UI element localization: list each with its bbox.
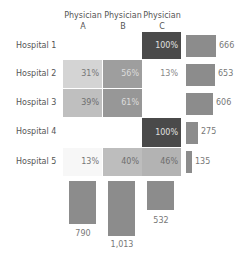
row-label-hospital-5: Hospital 5 (16, 157, 56, 167)
heatmap-cell: 13% (142, 60, 181, 88)
column-header-line: A (63, 21, 103, 32)
row-total-bar (186, 35, 216, 57)
row-total-value: 653 (218, 69, 233, 78)
column-total-value: 1,013 (102, 240, 142, 249)
row-label-hospital-2: Hospital 2 (16, 69, 56, 79)
row-total-bar (186, 122, 198, 144)
row-total-value: 275 (201, 127, 216, 136)
heatmap-cell: 56% (103, 60, 142, 88)
heatmap-cell: 100% (142, 118, 181, 147)
row-total-bar (186, 151, 192, 173)
column-total-bar (108, 181, 135, 236)
column-total-bar (147, 181, 174, 210)
heatmap-cell: 39% (63, 89, 102, 117)
row-total-bar (186, 93, 213, 115)
column-header-line: Physician (142, 10, 182, 21)
heatmap-cell: 31% (63, 60, 102, 88)
heatmap-cell: 61% (103, 89, 142, 117)
row-label-hospital-3: Hospital 3 (16, 98, 56, 108)
row-total-value: 135 (195, 157, 210, 166)
row-label-hospital-4: Hospital 4 (16, 127, 56, 137)
column-header-physician-c: Physician C (142, 10, 182, 32)
heatmap-cell: 13% (63, 148, 102, 176)
column-header-physician-b: Physician B (103, 10, 143, 32)
heatmap-cell: 40% (103, 148, 142, 176)
column-header-physician-a: Physician A (63, 10, 103, 32)
heatmap-cell: 100% (142, 32, 181, 59)
column-header-line: Physician (63, 10, 103, 21)
column-total-value: 532 (141, 216, 181, 225)
column-total-value: 790 (63, 229, 103, 238)
row-total-value: 606 (216, 98, 231, 107)
row-label-hospital-1: Hospital 1 (16, 41, 56, 51)
column-header-line: C (142, 21, 182, 32)
row-total-bar (186, 64, 215, 86)
column-header-line: Physician (103, 10, 143, 21)
heatmap-cell: 46% (142, 148, 181, 176)
row-total-value: 666 (219, 41, 234, 50)
column-header-line: B (103, 21, 143, 32)
column-total-bar (69, 181, 96, 224)
